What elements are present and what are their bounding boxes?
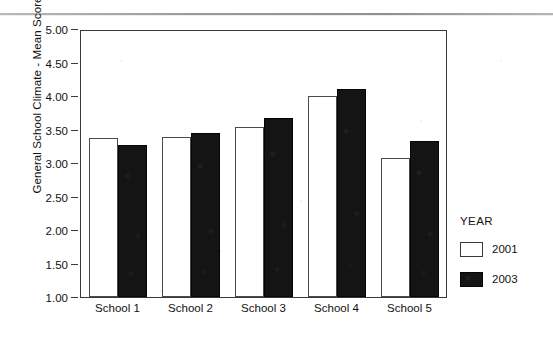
legend-swatch-2003: [460, 272, 483, 287]
legend-entry: 2001: [460, 240, 550, 258]
legend-entry: 2003: [460, 270, 550, 288]
y-axis-tick: 2.50: [0, 192, 78, 204]
bars-layer: [81, 31, 446, 297]
y-axis-tick-mark: [71, 29, 78, 30]
x-axis-label: School 5: [373, 302, 446, 314]
bar-group: [308, 31, 366, 297]
y-axis-tick-label: 2.00: [46, 225, 68, 237]
y-axis-tick: 5.00: [0, 24, 78, 36]
bar-2001-school-2: [162, 137, 191, 297]
scan-speck: [120, 60, 122, 62]
legend-entries: 20012003: [460, 240, 550, 288]
bar-2003-school-4: [337, 89, 366, 297]
legend-entry-label: 2001: [492, 243, 518, 255]
y-axis-tick-mark: [71, 130, 78, 131]
bar-2003-school-5: [410, 141, 439, 297]
bar-2003-school-2: [191, 133, 220, 297]
y-axis-tick-mark: [71, 96, 78, 97]
y-axis-tick-mark: [71, 63, 78, 64]
x-axis-label: School 3: [227, 302, 300, 314]
y-axis-tick-label: 1.50: [46, 259, 68, 271]
y-axis-tick: 4.50: [0, 58, 78, 70]
y-axis-tick-label: 4.50: [46, 58, 68, 70]
x-axis-label: School 4: [300, 302, 373, 314]
y-axis-tick-mark: [71, 163, 78, 164]
y-axis-tick-label: 2.50: [46, 192, 68, 204]
y-axis-tick: 1.50: [0, 259, 78, 271]
bar-2003-school-3: [264, 118, 293, 297]
bar-chart-figure: General School Climate - Mean Score 5.00…: [0, 0, 553, 339]
y-axis-tick-mark: [71, 264, 78, 265]
y-axis-tick: 3.50: [0, 125, 78, 137]
y-axis-tick: 2.00: [0, 225, 78, 237]
y-axis-tick-mark: [71, 230, 78, 231]
bar-2001-school-1: [89, 138, 118, 297]
bar-2001-school-5: [381, 158, 410, 297]
y-axis-tick-label: 1.00: [46, 292, 68, 304]
bar-2003-school-1: [118, 145, 147, 297]
bar-2001-school-3: [235, 127, 264, 297]
scan-speck: [300, 200, 302, 202]
legend-swatch-2001: [460, 242, 483, 257]
y-axis-tick-label: 4.00: [46, 91, 68, 103]
y-axis-tick-mark: [71, 197, 78, 198]
bar-group: [162, 31, 220, 297]
y-axis-tick-label: 5.00: [46, 24, 68, 36]
scan-speck: [420, 120, 422, 122]
y-axis-tick: 3.00: [0, 158, 78, 170]
scan-speck: [500, 60, 502, 62]
scan-speck: [220, 250, 222, 252]
bar-group: [235, 31, 293, 297]
x-axis-label: School 1: [81, 302, 154, 314]
x-axis-label: School 2: [154, 302, 227, 314]
y-axis-tick-label: 3.00: [46, 158, 68, 170]
legend: YEAR 20012003: [460, 215, 550, 300]
bar-group: [381, 31, 439, 297]
legend-entry-label: 2003: [492, 273, 518, 285]
y-axis-tick: 4.00: [0, 91, 78, 103]
bar-group: [89, 31, 147, 297]
bar-2001-school-4: [308, 96, 337, 297]
y-axis-tick-label: 3.50: [46, 125, 68, 137]
legend-title: YEAR: [460, 215, 550, 227]
y-axis-tick: 1.00: [0, 292, 78, 304]
y-axis-tick-mark: [71, 297, 78, 298]
